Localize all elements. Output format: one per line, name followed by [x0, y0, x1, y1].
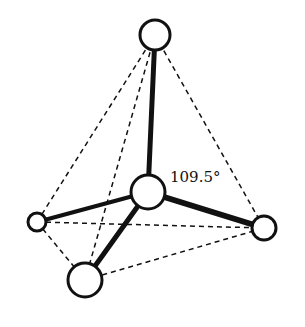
atom-top — [140, 20, 170, 50]
bond-center-top — [148, 35, 155, 192]
atom-bottom — [68, 263, 102, 297]
dashed-edge-left-right — [37, 222, 264, 228]
tetrahedral-diagram: 109.5° — [0, 0, 305, 327]
atom-left — [28, 213, 46, 231]
bond-angle-label: 109.5° — [170, 168, 220, 186]
molecule-drawing — [0, 0, 305, 327]
atom-right — [252, 216, 276, 240]
bonds — [37, 35, 264, 280]
atom-center — [131, 175, 165, 209]
dashed-edge-bottom-right — [85, 228, 264, 280]
dashed-edge-top-bottom — [85, 35, 155, 280]
